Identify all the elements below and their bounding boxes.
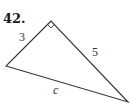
side-label-left-leg: 3 [19,30,25,44]
side-label-hypotenuse: c [53,83,59,97]
right-angle-marker [48,25,55,29]
side-label-right-leg: 5 [92,45,98,59]
problem-number: 42. [3,11,26,26]
right-triangle-diagram: 42. 3 5 c [0,0,132,108]
